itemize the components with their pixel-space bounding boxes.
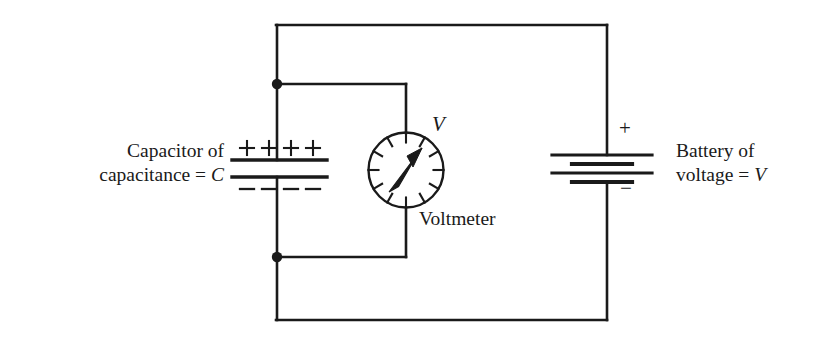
voltmeter-caption: Voltmeter xyxy=(419,207,496,231)
battery-plates xyxy=(552,155,652,182)
battery-label-line2-prefix: voltage = xyxy=(676,164,754,185)
capacitor-label-line2: capacitance = C xyxy=(48,163,224,187)
capacitor-symbol: C xyxy=(211,164,224,185)
top-junction-dot xyxy=(272,79,282,89)
circuit-diagram-figure: Capacitor of capacitance = C Battery of … xyxy=(0,0,831,344)
battery-symbol: V xyxy=(754,164,766,185)
capacitor-label-line2-prefix: capacitance = xyxy=(99,164,211,185)
battery-negative-terminal-sign: − xyxy=(620,176,632,201)
voltmeter-symbol-label: V xyxy=(432,112,445,138)
bottom-junction-dot xyxy=(272,252,282,262)
capacitor-label: Capacitor of capacitance = C xyxy=(48,139,224,187)
battery-label-line1: Battery of xyxy=(676,139,766,163)
capacitor-plus-signs xyxy=(240,141,320,155)
voltmeter-needle xyxy=(389,148,422,192)
battery-label: Battery of voltage = V xyxy=(676,139,766,187)
capacitor-label-line1: Capacitor of xyxy=(48,139,224,163)
battery-positive-terminal-sign: + xyxy=(619,116,631,141)
battery-label-line2: voltage = V xyxy=(676,163,766,187)
